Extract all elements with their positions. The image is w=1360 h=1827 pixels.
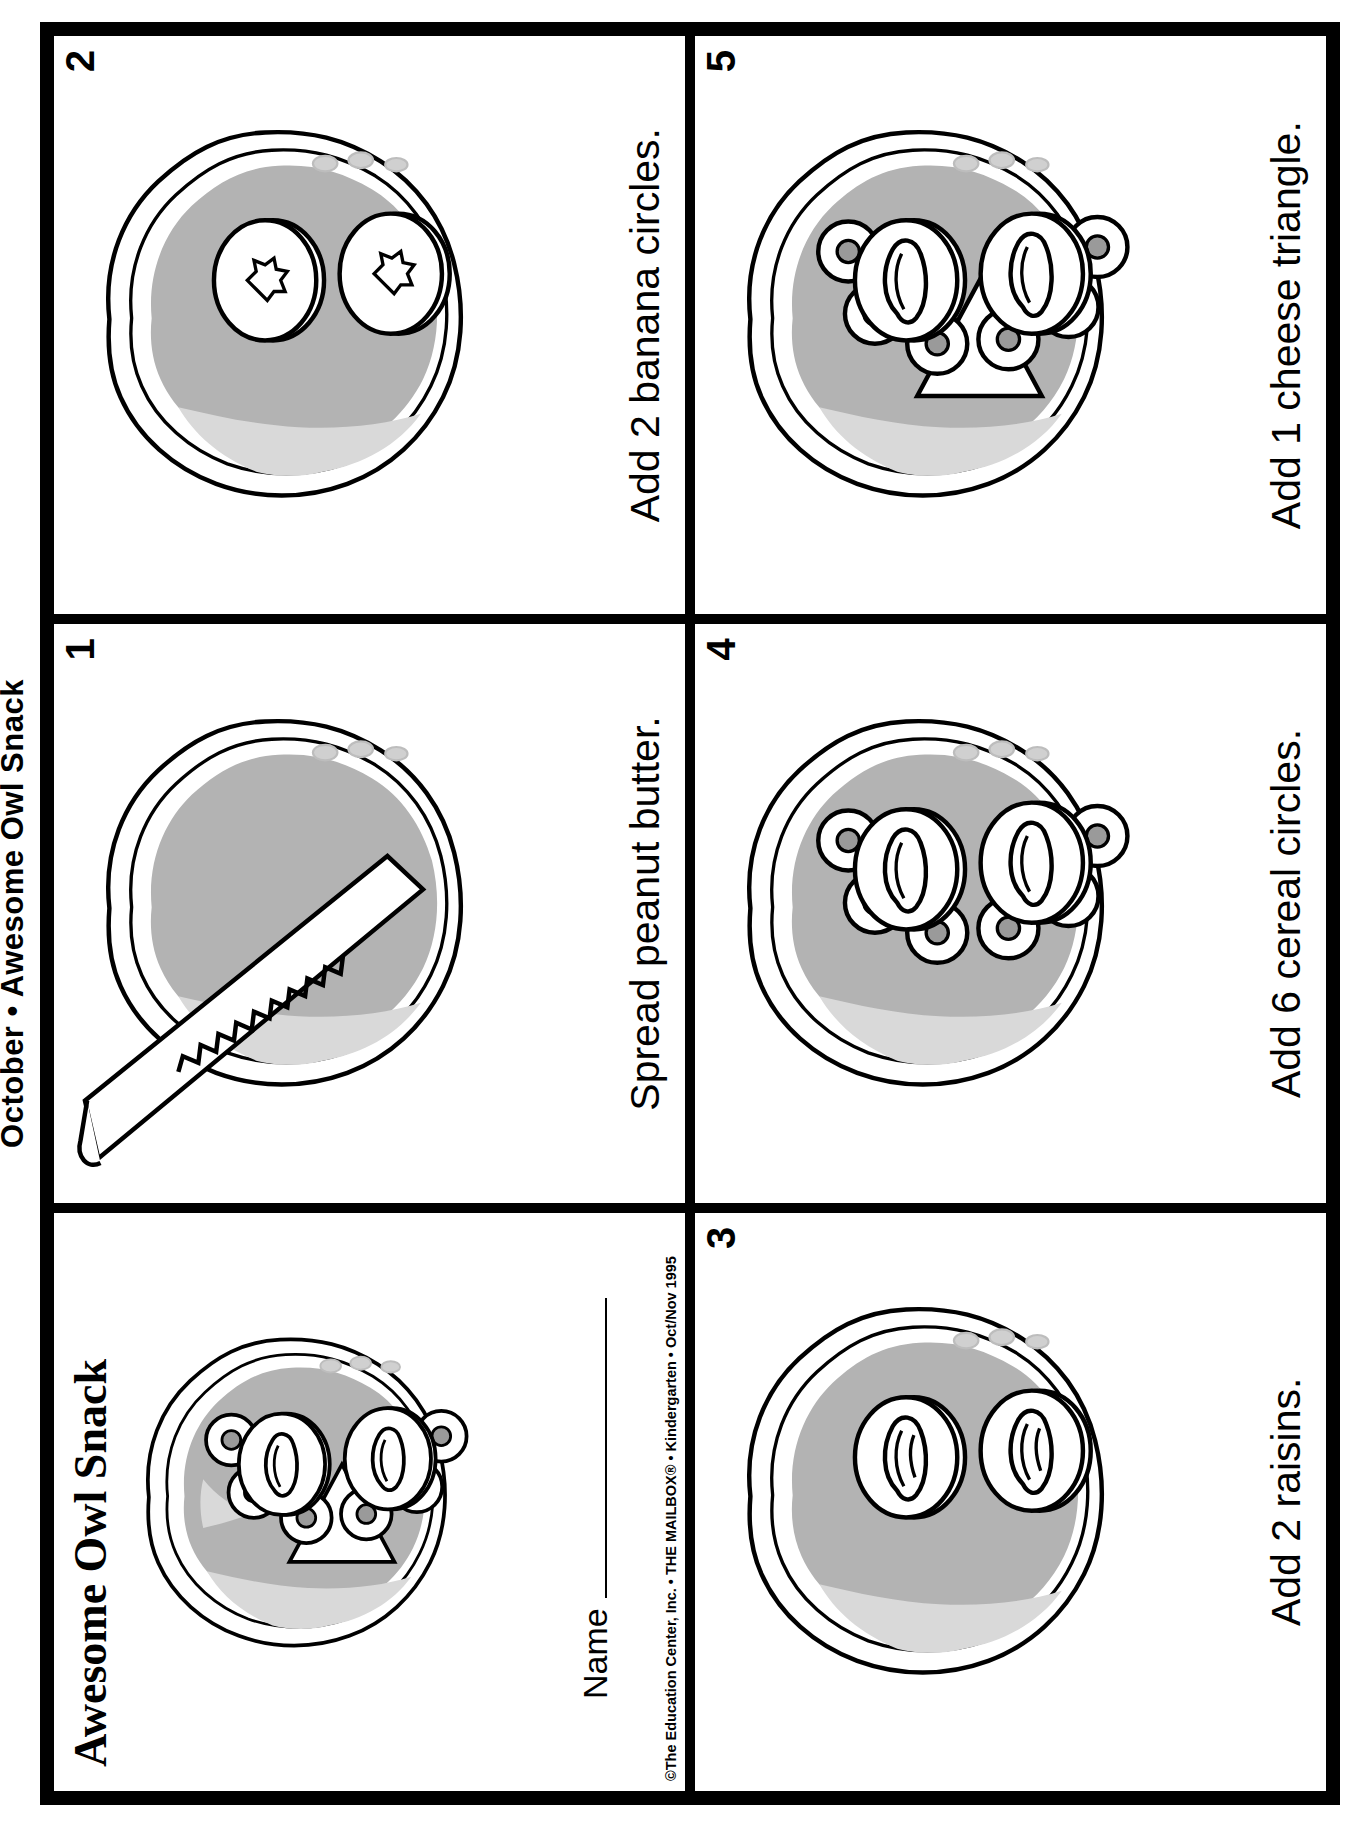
card-step-2: 2 bbox=[49, 31, 690, 619]
bread-with-cheese-triangle-illustration bbox=[709, 36, 1230, 614]
bread-with-knife-illustration bbox=[68, 624, 589, 1202]
bread-with-banana-circles-illustration bbox=[68, 36, 589, 614]
card-step-3: 3 bbox=[690, 1208, 1331, 1796]
card-step-1: 1 Spread peanut butter. bbox=[49, 619, 690, 1207]
step-caption-5: Add 1 cheese triangle. bbox=[1263, 36, 1310, 614]
step-caption-2: Add 2 banana circles. bbox=[622, 36, 669, 614]
name-field[interactable]: Name bbox=[576, 1298, 615, 1699]
bread-with-raisins-illustration bbox=[709, 1213, 1230, 1791]
name-label: Name bbox=[576, 1608, 615, 1699]
worksheet-page: October • Awesome Owl Snack Awesome Owl … bbox=[0, 0, 1360, 1827]
page-title: Awesome Owl Snack bbox=[64, 1359, 117, 1767]
rotated-worksheet-stage: October • Awesome Owl Snack Awesome Owl … bbox=[0, 0, 1360, 1827]
step-caption-4: Add 6 cereal circles. bbox=[1263, 624, 1310, 1202]
step-caption-3: Add 2 raisins. bbox=[1263, 1213, 1310, 1791]
bread-with-cereal-circles-illustration bbox=[709, 624, 1230, 1202]
running-head: October • Awesome Owl Snack bbox=[0, 0, 26, 1827]
card-title: Awesome Owl Snack bbox=[49, 1208, 690, 1796]
name-write-line[interactable] bbox=[604, 1298, 607, 1598]
finished-owl-snack-illustration bbox=[132, 1213, 535, 1791]
card-step-5: 5 bbox=[690, 31, 1331, 619]
step-caption-1: Spread peanut butter. bbox=[622, 624, 669, 1202]
copyright-credit: ©The Education Center, Inc. • THE MAILBO… bbox=[663, 1256, 679, 1781]
card-step-4: 4 bbox=[690, 619, 1331, 1207]
steps-grid: Awesome Owl Snack bbox=[40, 22, 1340, 1805]
